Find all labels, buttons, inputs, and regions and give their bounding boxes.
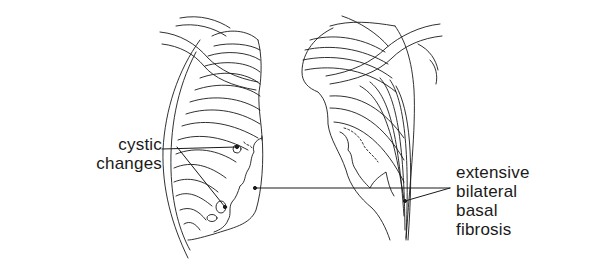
left-lung-drawing: [160, 17, 263, 258]
leader-fibrosis-right: [405, 188, 450, 201]
label-line: changes: [74, 154, 162, 173]
label-line: fibrosis: [456, 220, 530, 239]
label-basal-fibrosis: extensive bilateral basal fibrosis: [456, 163, 530, 239]
label-line: cystic: [74, 135, 162, 154]
figure-canvas: cystic changes extensive bilateral basal…: [0, 0, 592, 266]
leader-cystic-upper: [162, 147, 237, 149]
right-lung-drawing: [302, 16, 442, 240]
label-line: basal: [456, 201, 530, 220]
label-line: extensive: [456, 163, 530, 182]
label-cystic-changes: cystic changes: [74, 135, 162, 173]
label-line: bilateral: [456, 182, 530, 201]
